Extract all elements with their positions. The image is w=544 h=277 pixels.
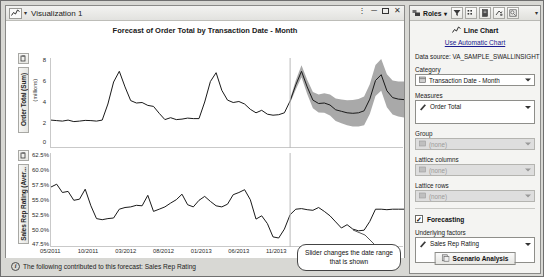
- line-chart-icon[interactable]: [9, 8, 22, 19]
- sales-rep-rating-pin-icon[interactable]: [18, 150, 29, 161]
- roles-tab[interactable]: Roles ▾: [412, 9, 447, 18]
- visualization-titlebar: ▾ Visualization 1 ⋮ ─ ✕: [6, 6, 404, 21]
- chevron-down-icon[interactable]: [525, 79, 531, 82]
- xtick-1: 10/2011: [78, 248, 99, 254]
- chart-type-row: Line Chart: [415, 26, 535, 35]
- roles-toolbar-overflow[interactable]: ▾: [535, 9, 538, 16]
- measure-icon: [419, 240, 427, 248]
- display-rules-icon[interactable]: [493, 7, 505, 19]
- visualization-window: ▾ Visualization 1 ⋮ ─ ✕ Forecast of Orde…: [5, 5, 405, 274]
- measure-icon: [419, 103, 427, 111]
- scenario-analysis-button[interactable]: Scenario Analysis: [435, 252, 516, 265]
- callout-pointer: [351, 229, 375, 245]
- ranks-icon[interactable]: [465, 7, 477, 19]
- axis-button-order-total[interactable]: Order Total (Sum): [18, 67, 29, 133]
- underlying-factors-label: Underlying factors: [415, 229, 535, 236]
- lattice-columns-combo[interactable]: (none): [415, 164, 535, 176]
- lattice-rows-value: (none): [429, 193, 447, 200]
- pin-icon[interactable]: ⋮: [358, 7, 366, 15]
- forecasting-checkbox-row[interactable]: ✓ Forecasting: [415, 215, 535, 223]
- data-source-label: Data source:: [415, 53, 451, 60]
- group-combo[interactable]: (none): [415, 138, 535, 150]
- chevron-down-icon[interactable]: [525, 106, 531, 109]
- close-icon[interactable]: ✕: [394, 7, 401, 15]
- ytick-top-1: 6: [34, 78, 46, 84]
- roles-panel: Roles ▾ ▾: [409, 5, 541, 274]
- visualization-body: Forecast of Order Total by Transaction D…: [6, 21, 404, 274]
- forecasting-checkbox[interactable]: ✓: [415, 215, 423, 223]
- xtick-3: 08/2012: [153, 248, 174, 254]
- forecast-status-text: The following contributed to this foreca…: [23, 263, 196, 270]
- data-source-value: VA_SAMPLE_SWALLINSIGHT: [452, 53, 539, 60]
- line-chart-icon: [452, 26, 461, 35]
- axis-button-sales-rep-rating-label: Sales Rep Rating (Aver...: [20, 167, 27, 241]
- axis-button-sales-rep-rating[interactable]: Sales Rep Rating (Aver...: [18, 164, 29, 244]
- lattice-columns-value: (none): [429, 167, 447, 174]
- chevron-down-icon[interactable]: [525, 195, 531, 198]
- category-value: Transaction Date - Month: [429, 77, 500, 84]
- order-total-pin-icon[interactable]: [18, 53, 29, 64]
- preview-icon[interactable]: [507, 7, 519, 19]
- measures-value: Order Total: [430, 103, 461, 110]
- roles-content: Line Chart Use Automatic Chart Data sour…: [410, 21, 540, 273]
- ytick-top-3: 2: [34, 120, 46, 126]
- xtick-5: 06/2013: [228, 248, 249, 254]
- chart-title: Forecast of Order Total by Transaction D…: [6, 26, 404, 35]
- roles-tab-label: Roles: [423, 10, 442, 17]
- slider-callout: Slider changes the date range that is sh…: [297, 244, 401, 271]
- roles-tab-caret[interactable]: ▾: [444, 10, 447, 17]
- info-icon: i: [11, 262, 20, 271]
- scenario-icon: [442, 254, 450, 263]
- ytick-top-4: 0: [34, 139, 46, 145]
- measures-label: Measures: [415, 92, 535, 99]
- data-source-row: Data source: VA_SAMPLE_SWALLINSIGHT: [415, 53, 535, 60]
- application-window: ▾ Visualization 1 ⋮ ─ ✕ Forecast of Orde…: [0, 0, 544, 277]
- category-combo[interactable]: Transaction Date - Month: [415, 74, 535, 86]
- group-value: (none): [429, 141, 447, 148]
- slider-callout-text: Slider changes the date range that is sh…: [301, 249, 397, 266]
- xtick-6: 11/2013: [266, 248, 287, 254]
- ytick-bot-2: 57.5%: [31, 182, 49, 188]
- xtick-0: 05/2011: [40, 248, 61, 254]
- ytick-bot-0: 62.5%: [31, 152, 49, 158]
- use-automatic-chart-link[interactable]: Use Automatic Chart: [415, 39, 535, 46]
- category-icon: [419, 166, 426, 174]
- xtick-4: 01/2013: [191, 248, 212, 254]
- ytick-top-2: 4: [34, 99, 46, 105]
- measures-listbox[interactable]: Order Total: [415, 100, 535, 124]
- filter-icon[interactable]: [451, 7, 463, 19]
- chart-type-label: Line Chart: [464, 27, 499, 34]
- roles-toolbar: Roles ▾ ▾: [410, 6, 540, 21]
- roles-icon: [412, 9, 421, 18]
- category-icon: [419, 192, 426, 200]
- ytick-bot-1: 60.0%: [31, 167, 49, 173]
- forecasting-label: Forecasting: [427, 216, 464, 223]
- date-icon: [419, 76, 426, 84]
- ytick-bot-4: 52.5%: [31, 212, 49, 218]
- lattice-rows-combo[interactable]: (none): [415, 190, 535, 202]
- axis-button-order-total-label: Order Total (Sum): [20, 73, 27, 126]
- scenario-analysis-label: Scenario Analysis: [453, 255, 509, 262]
- lattice-columns-label: Lattice columns: [415, 156, 535, 163]
- window-controls: ⋮ ─ ✕: [358, 7, 401, 15]
- category-icon: [419, 140, 426, 148]
- group-label: Group: [415, 130, 535, 137]
- lattice-rows-label: Lattice rows: [415, 182, 535, 189]
- ytick-bot-3: 55.0%: [31, 197, 49, 203]
- order-total-plot[interactable]: [50, 58, 403, 148]
- properties-icon[interactable]: [479, 7, 491, 19]
- divider: [415, 208, 535, 209]
- visualization-title: Visualization 1: [31, 9, 82, 18]
- minimize-icon[interactable]: ─: [371, 7, 377, 15]
- maximize-icon[interactable]: [382, 8, 389, 14]
- chevron-down-icon[interactable]: [525, 169, 531, 172]
- underlying-factors-value: Sales Rep Rating: [430, 240, 479, 247]
- ytick-bot-5: 50.0%: [31, 227, 49, 233]
- category-label: Category: [415, 66, 535, 73]
- ytick-bot-6: 47.5%: [31, 241, 49, 247]
- xtick-2: 03/2012: [115, 248, 136, 254]
- ytick-top-0: 8: [34, 57, 46, 63]
- chevron-down-icon[interactable]: [525, 143, 531, 146]
- chevron-down-icon[interactable]: [525, 243, 531, 246]
- chart-type-dropdown-caret[interactable]: ▾: [24, 10, 27, 16]
